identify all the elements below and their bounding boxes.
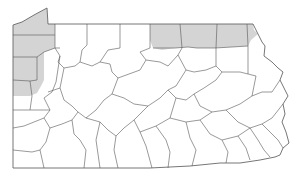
pennsylvania-map	[0, 0, 296, 177]
shaded-northwest	[13, 8, 55, 96]
county-map-svg	[0, 0, 296, 177]
shaded-regions	[13, 8, 258, 96]
